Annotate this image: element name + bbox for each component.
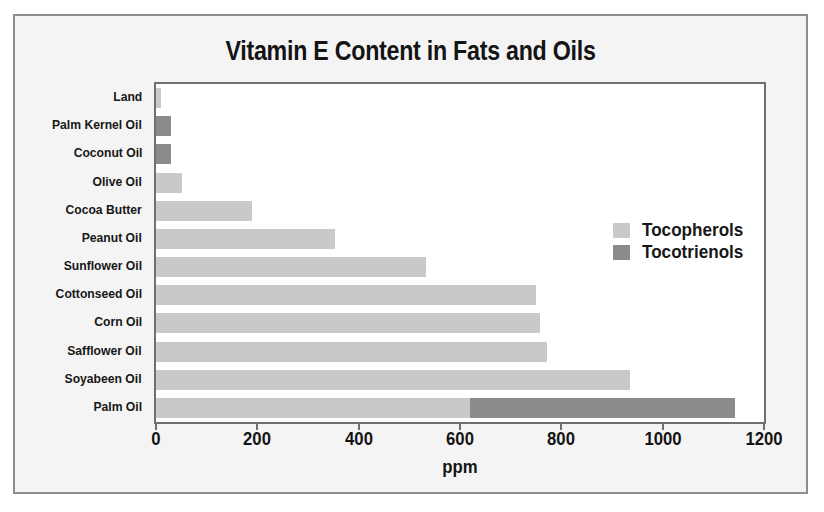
legend-swatch-tocopherols [613,223,630,238]
y-axis-label: Coconut Oil [73,146,142,160]
legend-label: Tocopherols [642,219,743,241]
bar-segment [156,229,335,249]
bar-segment [156,116,171,136]
y-axis-category-labels: LandPalm Kernel OilCoconut OilOlive OilC… [15,82,148,424]
x-tick-label: 200 [243,428,271,450]
y-axis-label: Cocoa Butter [66,203,142,217]
bar-row [156,88,161,108]
bar-row [156,398,735,418]
bar-segment [156,398,470,418]
y-axis-label: Sunflower Oil [64,259,142,273]
y-axis-label: Olive Oil [93,175,142,189]
bar-row [156,342,547,362]
bar-row [156,173,182,193]
x-axis-title: ppm [191,456,730,478]
chart-legend: TocopherolsTocotrienols [613,219,793,263]
x-tick-label: 800 [547,428,575,450]
legend-label: Tocotrienols [642,241,743,263]
bar-row [156,229,335,249]
y-axis-label: Soyabeen Oil [65,372,142,386]
bar-segment [156,313,540,333]
bar-row [156,370,630,390]
x-axis-tick-labels: 020040060080010001200 [154,428,766,454]
x-tick-label: 1200 [745,428,782,450]
bar-segment [156,370,630,390]
y-axis-label: Cottonseed Oil [56,287,142,301]
y-axis-label: Palm Kernel Oil [52,118,142,132]
legend-item: Tocopherols [613,219,793,241]
y-axis-label: Peanut Oil [82,231,142,245]
bar-row [156,285,536,305]
x-tick-label: 1000 [644,428,681,450]
bar-segment [156,144,171,164]
x-tick-label: 0 [151,428,160,450]
bar-segment [156,88,161,108]
bar-segment [156,201,252,221]
bar-row [156,257,426,277]
y-axis-label: Safflower Oil [68,344,142,358]
x-tick-label: 600 [446,428,474,450]
bar-row [156,313,540,333]
chart-title: Vitamin E Content in Fats and Oils [70,36,750,67]
bar-segment [156,342,547,362]
y-axis-label: Land [113,90,142,104]
bar-row [156,116,171,136]
y-axis-label: Corn Oil [94,315,142,329]
bar-segment [470,398,734,418]
x-tick-label: 400 [345,428,373,450]
bar-row [156,201,252,221]
bar-row [156,144,171,164]
chart-frame: Vitamin E Content in Fats and Oils LandP… [13,14,808,494]
y-axis-label: Palm Oil [93,400,142,414]
chart-page: Vitamin E Content in Fats and Oils LandP… [0,0,824,512]
legend-swatch-tocotrienols [613,245,630,260]
bar-segment [156,257,426,277]
bar-segment [156,285,536,305]
legend-item: Tocotrienols [613,241,793,263]
bar-segment [156,173,182,193]
